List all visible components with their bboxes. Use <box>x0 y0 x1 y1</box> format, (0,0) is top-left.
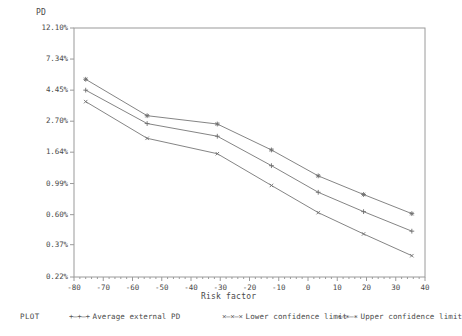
legend: PLOT +–+–+Average external PD ×–×–×Lower… <box>20 311 440 325</box>
data-series-group <box>83 77 414 258</box>
legend-symbol-star: ∗–∗–∗ <box>337 312 358 321</box>
series-0 <box>83 88 414 234</box>
legend-item-average-external-pd[interactable]: +–+–+Average external PD <box>69 312 180 324</box>
plot-frame <box>74 28 425 277</box>
legend-item-upper-confidence-limit[interactable]: ∗–∗–∗Upper confidence limit <box>337 312 462 324</box>
legend-item-lower-confidence-limit[interactable]: ×–×–×Lower confidence limit <box>222 312 347 324</box>
legend-symbol-plus: +–+–+ <box>69 312 90 321</box>
legend-title: PLOT <box>20 312 40 321</box>
series-1 <box>84 100 414 258</box>
legend-label-average-external-pd: Average external PD <box>93 312 181 321</box>
axis-ticks <box>70 28 425 281</box>
series-2 <box>83 77 414 216</box>
legend-label-upper-confidence-limit: Upper confidence limit <box>361 312 462 321</box>
legend-label-lower-confidence-limit: Lower confidence limit <box>246 312 348 321</box>
legend-symbol-x: ×–×–× <box>222 312 243 321</box>
